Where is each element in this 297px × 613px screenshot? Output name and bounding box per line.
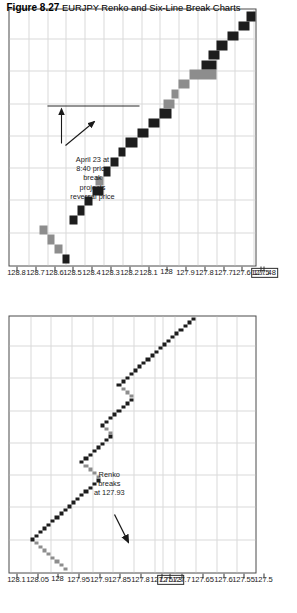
renko-brick — [150, 353, 154, 356]
six-line-break-block — [238, 21, 249, 30]
gridline-horizontal — [112, 316, 113, 572]
axis-tick-label: 128.1 — [7, 575, 26, 583]
gridline-vertical — [9, 70, 255, 71]
gridline-horizontal — [234, 9, 235, 265]
six-line-break-annotation: April 23 at 8:40 price break projects re… — [61, 155, 123, 201]
renko-brick — [137, 365, 141, 368]
renko-brick — [100, 442, 104, 445]
renko-brick — [108, 416, 112, 419]
six-line-break-block — [178, 79, 189, 88]
renko-brick — [100, 423, 104, 426]
axis-tick-label: 127.8 — [131, 575, 150, 583]
axis-tick-label: 128 — [160, 268, 172, 276]
gridline-horizontal — [103, 9, 104, 265]
renko-brick — [178, 328, 182, 331]
renko-annotation: Renko breaks at 127.93 — [80, 469, 138, 497]
renko-brick — [38, 545, 42, 548]
renko-brick — [67, 504, 71, 507]
renko-brick — [133, 368, 137, 371]
renko-brick — [116, 409, 120, 412]
renko-brick — [96, 445, 100, 448]
renko-brick — [42, 548, 46, 551]
renko-brick — [141, 361, 145, 364]
six-line-break-block — [77, 205, 85, 214]
axis-tick-label: 128.4 — [82, 268, 101, 276]
renko-brick — [59, 512, 63, 515]
six-line-break-block — [208, 50, 219, 59]
renko-brick — [54, 559, 58, 562]
gridline-horizontal — [122, 9, 123, 265]
six-line-break-block — [159, 108, 170, 117]
gridline-vertical — [9, 135, 255, 136]
six-line-break-block — [163, 99, 174, 108]
gridline-horizontal — [159, 9, 160, 265]
renko-brick — [42, 526, 46, 529]
renko-brick — [129, 372, 133, 375]
axis-tick-label: 127.95 — [67, 575, 90, 583]
axis-tick-label: 127.9 — [89, 575, 108, 583]
six-line-break-block — [189, 69, 215, 78]
scanned-book-page: 128.1128.05128127.95127.9127.85127.8127.… — [0, 0, 297, 613]
gridline-horizontal — [84, 9, 85, 265]
six-line-break-block — [39, 225, 47, 234]
gridline-vertical — [9, 167, 255, 168]
renko-chart-panel: 128.1128.05128127.95127.9127.85127.8127.… — [8, 315, 256, 573]
axis-tick-label: 127.6 — [232, 268, 251, 276]
renko-brick — [83, 464, 87, 467]
renko-brick — [121, 387, 125, 390]
figure-caption: Figure 8.27 EURJPY Renko and Six-Line Br… — [6, 1, 240, 12]
renko-brick — [92, 449, 96, 452]
renko-brick — [170, 335, 174, 338]
gridline-horizontal — [253, 9, 254, 265]
renko-brick — [183, 324, 187, 327]
axis-tick-label: 128 — [51, 575, 63, 583]
gridline-vertical — [9, 377, 255, 378]
renko-brick — [145, 357, 149, 360]
axis-tick-label: 127.7 — [213, 268, 232, 276]
renko-brick — [54, 515, 58, 518]
six-line-break-value-axis: 128.8128.7128.6128.5128.4128.3128.2128.1… — [8, 266, 256, 300]
renko-brick — [191, 317, 195, 320]
renko-brick — [104, 427, 108, 430]
renko-brick — [129, 398, 133, 401]
renko-brick — [129, 394, 133, 397]
gridline-horizontal — [174, 316, 175, 572]
axis-tick-label: 127.8 — [195, 268, 214, 276]
figure-caption-number: Figure 8.27 — [6, 1, 59, 12]
gridline-vertical — [9, 539, 255, 540]
renko-brick — [187, 320, 191, 323]
six-line-break-plot-area: April 23 at 8:40 price break projects re… — [8, 8, 256, 266]
gridline-vertical — [9, 345, 255, 346]
renko-brick — [46, 523, 50, 526]
six-line-break-block — [137, 128, 148, 137]
renko-value-axis: 128.1128.05128127.95127.9127.85127.8127.… — [8, 573, 256, 607]
gridline-vertical — [9, 442, 255, 443]
renko-brick — [166, 339, 170, 342]
renko-plot-area: Renko breaks at 127.93 — [8, 315, 256, 573]
axis-tick-label: 127.48 — [251, 267, 278, 277]
six-line-break-block — [62, 254, 70, 263]
axis-tick-label: 127.6 — [213, 575, 232, 583]
renko-brick — [30, 537, 34, 540]
renko-annotation-arrow — [9, 315, 256, 572]
renko-brick — [121, 379, 125, 382]
gridline-horizontal — [195, 316, 196, 572]
axis-tick-label: 127.85 — [108, 575, 131, 583]
gridline-horizontal — [236, 316, 237, 572]
renko-brick — [125, 401, 129, 404]
axis-tick-label: 128.5 — [63, 268, 82, 276]
renko-brick — [125, 390, 129, 393]
renko-brick — [79, 460, 83, 463]
gridline-horizontal — [133, 316, 134, 572]
axis-tick-label: 127.5 — [254, 575, 273, 583]
six-line-break-block — [69, 215, 77, 224]
gridline-horizontal — [178, 9, 179, 265]
axis-tick-label: 128.6 — [44, 268, 63, 276]
renko-brick — [88, 453, 92, 456]
renko-brick — [50, 519, 54, 522]
six-line-break-block — [47, 234, 55, 243]
six-line-break-block — [54, 244, 62, 253]
gridline-horizontal — [28, 9, 29, 265]
six-line-break-block — [171, 89, 179, 98]
gridline-horizontal — [71, 316, 72, 572]
